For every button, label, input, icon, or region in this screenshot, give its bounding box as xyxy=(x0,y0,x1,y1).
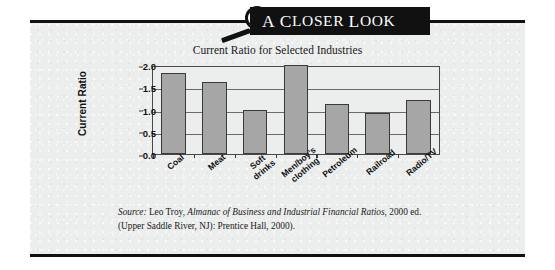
x-tick-label: Meat xyxy=(206,153,227,173)
y-tick-label: 1.5 xyxy=(143,83,156,94)
source-label: Source: xyxy=(118,207,147,217)
bar-slot xyxy=(235,67,276,154)
source-line1-italic: Almanac of Business and Industrial Finan… xyxy=(187,207,384,217)
bar-slot xyxy=(357,67,398,154)
x-label-cell: Softdrinks xyxy=(234,155,275,201)
x-label-cell: Coal xyxy=(152,155,193,201)
bar[interactable] xyxy=(325,104,350,154)
chart-title: Current Ratio for Selected Industries xyxy=(30,44,525,56)
bar-series xyxy=(153,67,439,154)
x-label-cell: Railroad xyxy=(358,155,399,201)
y-tick-mark xyxy=(139,133,143,134)
source-line1-tail: , 2000 xyxy=(385,207,408,217)
banner-title-part-1: A xyxy=(262,11,275,32)
section-banner-title: A CLOSER LOOK xyxy=(262,7,432,35)
y-tick-mark xyxy=(139,66,143,67)
plot-area xyxy=(152,66,440,155)
bar-slot xyxy=(398,67,439,154)
bar[interactable] xyxy=(406,100,431,154)
y-tick-mark xyxy=(139,155,143,156)
bottom-rule xyxy=(30,254,525,257)
bar[interactable] xyxy=(365,113,390,154)
screenshot-root: A CLOSER LOOK Current Ratio for Selected… xyxy=(0,0,555,270)
x-tick-label: Softdrinks xyxy=(245,151,277,182)
bar[interactable] xyxy=(161,73,186,154)
x-label-cell: Petroleum xyxy=(317,155,358,201)
banner-title-part-3: LOSER xyxy=(292,12,344,30)
bar[interactable] xyxy=(243,110,268,155)
banner-title-part-4: L xyxy=(349,11,360,32)
source-line1-plain: Leo Troy, xyxy=(147,207,188,217)
x-axis-labels: CoalMeatSoftdrinksMen/boy'sclothingPetro… xyxy=(152,155,440,201)
x-label-cell: Radio/TV xyxy=(399,155,440,201)
y-tick-mark xyxy=(139,88,143,89)
banner-title-part-5: OOK xyxy=(360,12,395,30)
y-tick-label: 2.0 xyxy=(143,61,156,72)
y-axis-label: Current Ratio xyxy=(77,44,88,164)
y-tick-mark xyxy=(139,111,143,112)
bar-slot xyxy=(153,67,194,154)
source-note: Source: Leo Troy, Almanac of Business an… xyxy=(118,205,448,234)
bar-slot xyxy=(316,67,357,154)
bar-slot xyxy=(194,67,235,154)
banner-title-part-2: C xyxy=(280,11,292,32)
x-label-cell: Men/boy'sclothing xyxy=(275,155,316,201)
bar[interactable] xyxy=(284,65,309,154)
bar[interactable] xyxy=(202,82,227,154)
bar-chart: Current Ratio 2.01.51.00.50.0 CoalMeatSo… xyxy=(120,60,450,165)
y-tick-label: 0.5 xyxy=(143,127,156,138)
y-tick-label: 1.0 xyxy=(143,105,156,116)
x-label-cell: Meat xyxy=(193,155,234,201)
bar-slot xyxy=(276,67,317,154)
x-tick-label: Coal xyxy=(165,153,185,172)
magnifier-handle xyxy=(221,28,251,42)
